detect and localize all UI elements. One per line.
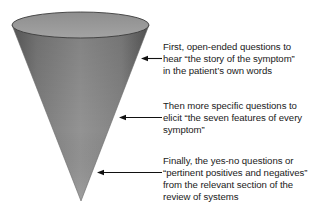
arrow-stage-2 [119, 115, 162, 120]
cone-body [12, 25, 149, 201]
interview-funnel-diagram: First, open-ended questions to hear “the… [0, 0, 333, 215]
annotation-specific-questions: Then more specific questions to elicit “… [163, 100, 333, 136]
arrow-stage-1 [141, 56, 162, 61]
cone-rim [12, 12, 149, 38]
annotation-open-ended-questions: First, open-ended questions to hear “the… [163, 41, 333, 77]
annotation-yes-no-questions: Finally, the yes-no questions or “pertin… [163, 155, 333, 203]
arrow-stage-3 [97, 170, 162, 175]
